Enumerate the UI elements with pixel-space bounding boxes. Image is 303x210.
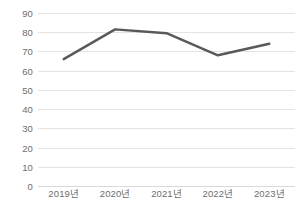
x-tick-label-2020: 2020년 [100, 189, 131, 199]
series-line-layer [0, 0, 303, 210]
x-tick-label-2022: 2022년 [203, 189, 234, 199]
x-tick-label-2019: 2019년 [48, 189, 79, 199]
x-tick-label-2021: 2021년 [151, 189, 182, 199]
x-tick-label-2023: 2023년 [254, 189, 285, 199]
x-axis: 2019년 2020년 2021년 2022년 2023년 [38, 189, 295, 205]
series-line [64, 29, 270, 59]
line-chart: 90 80 70 60 50 40 30 20 10 0 2019년 2020년… [0, 0, 303, 210]
